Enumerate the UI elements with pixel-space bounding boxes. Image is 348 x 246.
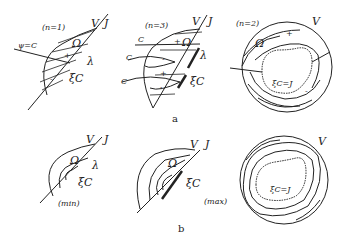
outer-circle (240, 136, 328, 224)
inner-boundary-xi (256, 158, 306, 201)
label-c3: C (121, 78, 127, 86)
label-xi: ξC (78, 177, 92, 188)
label-omega: Ω (182, 37, 191, 48)
label-xi: ξC (69, 73, 83, 84)
label-c2: C (126, 54, 132, 62)
label-V: V (91, 18, 99, 29)
label-xi-eq-J: ξC=J (272, 80, 292, 88)
label-c1: C (138, 36, 144, 44)
label-V: V (312, 16, 320, 27)
case-label-a2: (n=3) (145, 22, 168, 30)
label-J: J (205, 139, 209, 150)
case-label-b2: (max) (204, 198, 227, 206)
label-J: J (104, 134, 108, 145)
label-minus-low: - (160, 84, 163, 92)
label-plus: + (286, 30, 293, 38)
label-omega: Ω (72, 38, 81, 49)
label-xi: ξC (190, 76, 204, 87)
label-lambda: λ (87, 56, 94, 67)
inner-contour (66, 166, 78, 180)
label-omega: Ω (70, 155, 79, 166)
label-lambda: λ (92, 160, 99, 171)
label-omega: Ω (255, 38, 264, 49)
label-plus: + (64, 52, 71, 60)
label-plus-low: + (160, 70, 167, 78)
panel-b3-figure (240, 136, 328, 224)
case-label-a3: (n=2) (236, 20, 259, 28)
contour-ring-2 (243, 143, 320, 216)
panel-a3-figure (230, 22, 332, 112)
label-minus: - (305, 88, 308, 96)
label-J: J (104, 18, 108, 29)
label-V: V (318, 136, 326, 147)
caption-a: a (172, 114, 178, 124)
label-V: V (192, 16, 200, 27)
label-V: V (86, 134, 94, 145)
contour-psi-c (14, 49, 70, 63)
label-V: V (190, 139, 198, 150)
label-xi: ξC (186, 178, 200, 189)
label-omega: Ω (168, 158, 177, 169)
case-label-a1: (n=1) (42, 24, 65, 32)
label-plus-top: + (174, 38, 181, 46)
label-minus-mid: - (162, 56, 165, 64)
label-xi-eq-J: ξC=J (270, 186, 290, 194)
label-psi: ψ=C (18, 42, 37, 50)
contour-ring-1 (249, 150, 313, 209)
label-minus: - (50, 76, 53, 84)
caption-b: b (178, 224, 184, 234)
case-label-b1: (min) (58, 200, 80, 208)
label-J: J (208, 16, 212, 27)
label-lambda: λ (200, 50, 207, 61)
